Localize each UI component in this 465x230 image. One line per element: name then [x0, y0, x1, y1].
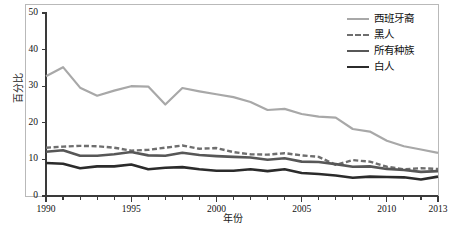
- legend-swatch-1: [347, 34, 369, 36]
- y-axis-tick-label: 50: [14, 7, 38, 17]
- legend-item[interactable]: 所有种族: [347, 44, 414, 58]
- line-chart: 01020304050 199019952000200520102013 百分比…: [0, 0, 465, 230]
- y-axis-title: 百分比: [10, 58, 25, 118]
- y-axis-tick-label: 10: [14, 153, 38, 163]
- legend-swatch-0: [347, 18, 369, 20]
- series-line-0: [46, 67, 438, 153]
- legend-item[interactable]: 黑人: [347, 28, 394, 42]
- x-axis-title: 年份: [0, 210, 465, 225]
- series-line-2: [46, 150, 438, 172]
- y-axis-tick-label: 20: [14, 117, 38, 127]
- y-axis-tick-label: 0: [14, 190, 38, 200]
- legend-item[interactable]: 西班牙裔: [347, 12, 414, 26]
- legend-item[interactable]: 白人: [347, 60, 394, 74]
- y-axis-tick-label: 40: [14, 44, 38, 54]
- legend-label: 黑人: [374, 30, 394, 41]
- plot-area: [0, 0, 465, 230]
- legend-label: 西班牙裔: [374, 14, 414, 25]
- legend-label: 所有种族: [374, 46, 414, 57]
- series-layer: [46, 67, 438, 179]
- legend-swatch-2: [347, 50, 369, 52]
- legend-label: 白人: [374, 62, 394, 73]
- legend-swatch-3: [347, 66, 369, 68]
